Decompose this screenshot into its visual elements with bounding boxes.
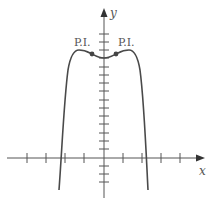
- inflection-point-right: [114, 52, 119, 57]
- x-axis-arrow-icon: [196, 155, 205, 162]
- inflection-label-left: P.I.: [74, 36, 91, 49]
- inflection-point-left: [90, 52, 95, 57]
- y-axis-arrow-icon: [101, 8, 108, 17]
- y-axis-label: y: [109, 6, 117, 20]
- y-axis: y: [99, 6, 117, 198]
- inflection-label-right: P.I.: [118, 36, 135, 49]
- x-axis-label: x: [199, 164, 206, 178]
- function-graph: x y P.I. P.I.: [0, 0, 208, 209]
